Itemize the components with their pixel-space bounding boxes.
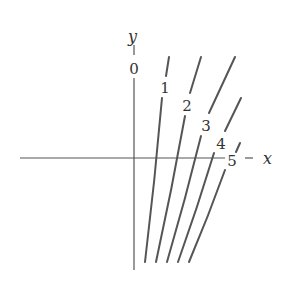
level-curve-1-segment	[166, 57, 169, 76]
curve-label-1: 1	[160, 79, 170, 97]
curve-labels: 012345	[129, 60, 237, 170]
level-curve-4-segment	[225, 98, 241, 131]
level-curve-2-segment	[156, 116, 185, 262]
curve-label-0: 0	[129, 60, 139, 78]
curve-label-3: 3	[201, 117, 211, 135]
curve-label-4: 4	[216, 135, 226, 153]
y-axis-label: y	[127, 27, 138, 46]
curve-label-5: 5	[227, 152, 237, 170]
level-curves-diagram: x y 012345	[0, 0, 287, 283]
x-axis-label: x	[263, 149, 272, 168]
level-curve-3-segment	[209, 57, 235, 113]
level-curve-1-segment	[145, 98, 162, 262]
curve-label-2: 2	[182, 97, 192, 115]
level-curve-5-segment	[236, 143, 240, 152]
level-curve-2-segment	[190, 57, 201, 93]
axes: x y	[20, 27, 272, 270]
